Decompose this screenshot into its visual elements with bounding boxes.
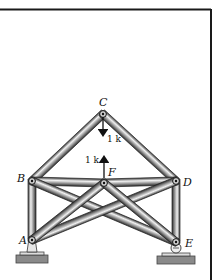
truss-members (28, 110, 180, 247)
truss-diagram: C B D F A E 1 k 1 k (0, 0, 216, 280)
joint-label-e: E (184, 237, 193, 250)
joint-label-f: F (107, 166, 116, 179)
member-bc (28, 110, 107, 186)
joint-label-d: D (182, 176, 192, 189)
ground-e (157, 256, 195, 264)
load-label-c: 1 k (107, 134, 122, 144)
loads (103, 117, 104, 178)
joint-label-b: B (16, 172, 25, 185)
load-label-f: 1 k (85, 155, 100, 165)
joint-label-a: A (18, 234, 27, 247)
joint-label-c: C (99, 96, 108, 109)
ground-a (16, 255, 48, 263)
